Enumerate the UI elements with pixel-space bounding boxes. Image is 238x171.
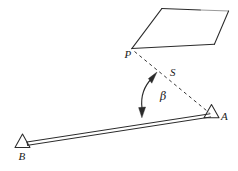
building-edge-top [162,9,201,10]
label-station-a: A [220,110,228,122]
label-station-b: B [19,150,26,162]
baseline-b-to-a [27,114,211,146]
station-marker-a [204,105,219,118]
tilted-rectangle-building [132,9,229,49]
building-edge-top-faint-segment [201,10,229,11]
baseline-lower-rail [28,117,211,145]
surveying-diagram-svg: P S β A B [0,0,238,171]
angle-arc-beta [139,72,157,118]
building-edge-right [214,11,228,44]
label-point-p: P [124,48,132,60]
arc-curve [142,78,152,108]
diagram-canvas: P S β A B [0,0,238,171]
label-distance-s: S [170,66,176,78]
baseline-upper-rail [27,114,210,142]
sightline-segment [135,52,210,114]
building-edge-bottom [132,44,215,48]
dashed-sightline-p-to-a [135,52,210,114]
building-edge-left [132,9,162,49]
triangle-marker-a [204,105,219,118]
arc-arrowhead-lower [139,107,146,118]
label-angle-beta: β [159,90,166,103]
